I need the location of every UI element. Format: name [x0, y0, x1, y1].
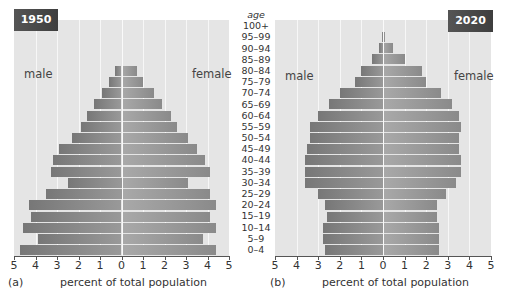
age-label: 35–39 — [236, 166, 276, 177]
male-bar-65–69 — [329, 99, 383, 109]
female-bar-20–24 — [122, 200, 217, 210]
x-tick-label: 5 — [6, 259, 22, 272]
male-bar-20–24 — [29, 200, 121, 210]
female-bar-50–54 — [122, 133, 189, 143]
x-tick-label: 3 — [440, 259, 456, 272]
male-bar-10–14 — [323, 223, 383, 233]
age-label: 80–84 — [236, 65, 276, 76]
female-label-1950: female — [192, 67, 232, 81]
female-bar-75–79 — [122, 77, 144, 87]
age-label: 70–74 — [236, 87, 276, 98]
female-bar-5–9 — [122, 234, 204, 244]
male-bar-75–79 — [109, 77, 122, 87]
x-tick-label: 5 — [483, 259, 499, 272]
male-bar-55–59 — [81, 122, 122, 132]
female-bar-45–49 — [122, 144, 197, 154]
age-label: 95–99 — [236, 31, 276, 42]
age-header: age — [236, 9, 276, 20]
male-bar-15–19 — [327, 212, 383, 222]
male-bar-50–54 — [310, 133, 383, 143]
female-bar-5–9 — [383, 234, 439, 244]
x-tick-label: 1 — [397, 259, 413, 272]
age-label: 65–69 — [236, 99, 276, 110]
female-bar-35–39 — [383, 167, 461, 177]
gridline — [297, 20, 298, 256]
x-tick-label: 4 — [28, 259, 44, 272]
female-bar-80–84 — [383, 66, 422, 76]
age-label: 5–9 — [236, 233, 276, 244]
x-axis-title-1950: percent of total population — [60, 276, 207, 289]
male-bar-35–39 — [51, 167, 122, 177]
male-bar-25–29 — [46, 189, 121, 199]
female-bar-30–34 — [122, 178, 189, 188]
age-label: 55–59 — [236, 121, 276, 132]
female-bar-65–69 — [383, 99, 452, 109]
male-bar-30–34 — [68, 178, 122, 188]
male-label-1950: male — [24, 67, 53, 81]
female-bar-80–84 — [122, 66, 137, 76]
female-bar-35–39 — [122, 167, 210, 177]
male-bar-5–9 — [323, 234, 383, 244]
female-bar-50–54 — [383, 133, 459, 143]
x-tick-label: 5 — [221, 259, 237, 272]
x-axis-title-2020: percent of total population — [322, 276, 469, 289]
age-label: 40–44 — [236, 154, 276, 165]
x-tick-label: 2 — [418, 259, 434, 272]
female-bar-75–79 — [383, 77, 426, 87]
plot-area-1950 — [14, 20, 229, 256]
age-label: 90–94 — [236, 43, 276, 54]
female-bar-85–89 — [383, 54, 405, 64]
x-tick-label: 1 — [135, 259, 151, 272]
male-bar-25–29 — [318, 189, 383, 199]
male-label-2020: male — [285, 69, 314, 83]
male-bar-60–64 — [318, 111, 383, 121]
female-bar-15–19 — [122, 212, 210, 222]
x-tick-label: 4 — [461, 259, 477, 272]
x-tick-label: 3 — [178, 259, 194, 272]
x-tick-label: 1 — [92, 259, 108, 272]
male-bar-20–24 — [325, 200, 383, 210]
male-bar-50–54 — [72, 133, 121, 143]
male-bar-30–34 — [305, 178, 383, 188]
male-bar-35–39 — [305, 167, 383, 177]
male-bar-15–19 — [31, 212, 121, 222]
age-labels: age 100+95–9990–9485–8980–8475–7970–7465… — [236, 9, 276, 255]
age-label: 15–19 — [236, 210, 276, 221]
male-bar-70–74 — [102, 88, 121, 98]
year-badge-1950: 1950 — [14, 9, 58, 31]
male-bar-0–4 — [20, 245, 121, 255]
female-bar-70–74 — [122, 88, 154, 98]
age-label: 25–29 — [236, 188, 276, 199]
center-line — [383, 20, 384, 256]
female-bar-60–64 — [122, 111, 171, 121]
x-tick-label: 2 — [332, 259, 348, 272]
female-bar-25–29 — [383, 189, 446, 199]
age-label: 45–49 — [236, 143, 276, 154]
gridline — [469, 20, 470, 256]
male-bar-5–9 — [38, 234, 122, 244]
male-bar-10–14 — [23, 223, 122, 233]
male-bar-40–44 — [305, 155, 383, 165]
x-tick-label: 2 — [71, 259, 87, 272]
male-bar-65–69 — [94, 99, 122, 109]
female-bar-10–14 — [383, 223, 439, 233]
female-bar-55–59 — [383, 122, 461, 132]
age-label: 30–34 — [236, 177, 276, 188]
age-label: 100+ — [236, 20, 276, 31]
female-bar-40–44 — [122, 155, 206, 165]
age-label: 60–64 — [236, 110, 276, 121]
x-tick-label: 0 — [375, 259, 391, 272]
male-bar-85–89 — [372, 54, 383, 64]
x-tick-label: 0 — [114, 259, 130, 272]
age-label: 0–4 — [236, 244, 276, 255]
female-bar-10–14 — [122, 223, 217, 233]
female-bar-70–74 — [383, 88, 441, 98]
year-badge-2020: 2020 — [448, 10, 493, 32]
age-label: 85–89 — [236, 54, 276, 65]
center-line — [122, 20, 123, 256]
age-label: 75–79 — [236, 76, 276, 87]
x-tick-label: 1 — [353, 259, 369, 272]
x-tick-label: 3 — [49, 259, 65, 272]
female-label-2020: female — [454, 69, 494, 83]
male-bar-55–59 — [310, 122, 383, 132]
